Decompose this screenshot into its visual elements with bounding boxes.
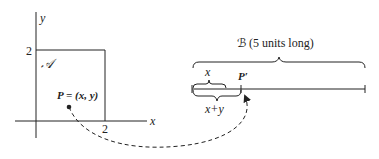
y-tick-label: 2: [26, 44, 32, 58]
x-axis-label: x: [149, 114, 156, 128]
xy-brace-label: x+y: [204, 102, 224, 116]
region-a-label: 𝒜: [41, 56, 57, 71]
xy-brace: [193, 90, 241, 101]
coordinate-axes: [15, 12, 147, 138]
y-axis-label: y: [39, 11, 46, 25]
point-p-label: P = (x, y): [57, 89, 98, 102]
x-brace-label: x: [204, 65, 211, 79]
segment-b-brace: [193, 57, 365, 68]
segment-b: [192, 85, 365, 93]
x-brace: [193, 80, 226, 88]
diagram-canvas: y x 2 2 𝒜 P = (x, y) ℬ (5 units long) x …: [0, 0, 379, 159]
x-tick-label: 2: [102, 122, 108, 136]
p-prime-label: P′: [238, 70, 248, 82]
segment-b-label: ℬ (5 units long): [237, 36, 314, 50]
